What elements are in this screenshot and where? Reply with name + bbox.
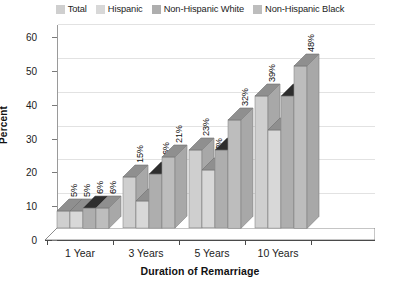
- y-axis-tick-mark: [52, 139, 57, 140]
- bar-front-face: [202, 170, 215, 228]
- y-gridline: [58, 24, 375, 25]
- bar-value-label: 15%: [135, 145, 145, 163]
- bar-front-face: [294, 66, 307, 228]
- y-axis-tick-mark: [52, 71, 57, 72]
- x-axis-category-label: 5 Years: [194, 247, 229, 259]
- bar[interactable]: [123, 177, 136, 228]
- bar-3d-shape: [294, 54, 319, 228]
- chart-legend: TotalHispanicNon-Hispanic WhiteNon-Hispa…: [0, 4, 400, 14]
- bar[interactable]: [136, 201, 149, 228]
- legend-label: Total: [68, 4, 87, 14]
- bar-front-face: [268, 130, 281, 228]
- bar-front-face: [70, 211, 83, 228]
- bar[interactable]: [215, 150, 228, 228]
- bar-value-label: 32%: [240, 88, 250, 106]
- bar[interactable]: [83, 208, 96, 228]
- bar-front-face: [162, 157, 175, 228]
- bar[interactable]: [189, 150, 202, 228]
- bar-front-face: [123, 177, 136, 228]
- bar-3d-shape: [96, 196, 121, 228]
- bar[interactable]: [228, 120, 241, 228]
- x-axis-line: [45, 240, 375, 241]
- bar-front-face: [136, 201, 149, 228]
- bar-front-face: [83, 208, 96, 228]
- bar-3d-shape: [162, 145, 187, 228]
- y-axis-tick-label: 10: [11, 201, 37, 212]
- bar[interactable]: [149, 174, 162, 228]
- legend-entry[interactable]: Non-Hispanic White: [152, 4, 244, 14]
- bar-front-face: [149, 174, 162, 228]
- bar-3d-shape: [228, 108, 253, 228]
- legend-label: Non-Hispanic White: [164, 4, 244, 14]
- y-gridline: [58, 126, 375, 127]
- x-axis-tick-mark: [311, 240, 312, 245]
- x-axis-category-label: 10 Years: [258, 247, 299, 259]
- x-axis-category-label: 3 Years: [128, 247, 163, 259]
- legend-swatch-icon: [56, 5, 65, 14]
- bar-front-face: [255, 96, 268, 228]
- x-axis-category-label: 1 Year: [65, 247, 95, 259]
- y-axis-tick-mark: [52, 172, 57, 173]
- bar[interactable]: [96, 208, 109, 228]
- y-axis-tick-mark: [52, 37, 57, 38]
- x-axis-tick-mark: [245, 240, 246, 245]
- floor-polygon: [45, 228, 375, 240]
- legend-swatch-icon: [253, 5, 262, 14]
- bar-value-label: 6%: [108, 181, 118, 194]
- y-axis-tick-label: 20: [11, 167, 37, 178]
- legend-swatch-icon: [96, 5, 105, 14]
- bar[interactable]: [70, 211, 83, 228]
- x-axis-title: Duration of Remarriage: [0, 265, 400, 277]
- bar-value-label: 23%: [201, 118, 211, 136]
- bar-front-face: [57, 211, 70, 228]
- legend-label: Hispanic: [108, 4, 143, 14]
- bar-front-face: [281, 96, 294, 228]
- bar[interactable]: [202, 170, 215, 228]
- bar[interactable]: [281, 96, 294, 228]
- legend-entry[interactable]: Hispanic: [96, 4, 143, 14]
- bar-front-face: [96, 208, 109, 228]
- y-axis-tick-label: 60: [11, 32, 37, 43]
- y-gridline: [58, 92, 375, 93]
- y-axis-tick-mark: [52, 206, 57, 207]
- bar-front-face: [189, 150, 202, 228]
- y-gridline: [58, 58, 375, 59]
- bar-front-face: [215, 150, 228, 228]
- y-axis-tick-mark: [52, 105, 57, 106]
- y-axis-tick-label: 40: [11, 99, 37, 110]
- y-axis-title: Percent: [0, 106, 9, 144]
- bar-side-face: [175, 145, 187, 228]
- bar[interactable]: [255, 96, 268, 228]
- bar[interactable]: [57, 211, 70, 228]
- y-axis-tick-mark: [52, 240, 57, 241]
- plot-floor-3d: [45, 228, 375, 240]
- plot-area: 5%5%6%6%15%8%16%21%23%17%23%32%39%29%39%…: [45, 25, 375, 240]
- legend-entry[interactable]: Non-Hispanic Black: [253, 4, 344, 14]
- bar[interactable]: [294, 66, 307, 228]
- bar-side-face: [307, 54, 319, 228]
- y-axis-tick-label: 50: [11, 65, 37, 76]
- bar-value-label: 21%: [174, 125, 184, 143]
- bar-value-label: 6%: [95, 181, 105, 194]
- legend-swatch-icon: [152, 5, 161, 14]
- bar[interactable]: [268, 130, 281, 228]
- x-axis-tick-mark: [47, 240, 48, 245]
- legend-label: Non-Hispanic Black: [265, 4, 344, 14]
- bar[interactable]: [162, 157, 175, 228]
- y-axis-tick-label: 30: [11, 133, 37, 144]
- y-axis-tick-label: 0: [11, 235, 37, 246]
- bar-value-label: 48%: [306, 34, 316, 52]
- bar-chart: TotalHispanicNon-Hispanic WhiteNon-Hispa…: [0, 0, 400, 289]
- legend-entry[interactable]: Total: [56, 4, 87, 14]
- bar-value-label: 39%: [267, 64, 277, 82]
- x-axis-tick-mark: [113, 240, 114, 245]
- bar-side-face: [241, 108, 253, 228]
- bar-front-face: [228, 120, 241, 228]
- x-axis-tick-mark: [179, 240, 180, 245]
- bar-value-label: 5%: [69, 184, 79, 197]
